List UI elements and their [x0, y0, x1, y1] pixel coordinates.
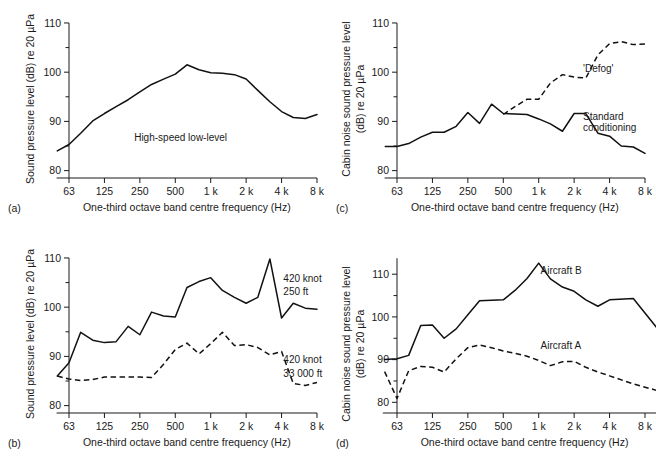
panel-d: 8090100110631252505001 k2 k4 k8 kAircraf… [328, 235, 656, 470]
x-tick-label: 250 [131, 420, 149, 432]
y-tick-label: 110 [372, 17, 389, 29]
y-tick-label: 100 [43, 66, 61, 78]
x-tick-label: 250 [459, 420, 477, 432]
x-tick-label: 500 [167, 185, 185, 197]
x-tick-label: 2 k [239, 420, 254, 432]
x-tick-label: 8 k [638, 185, 653, 197]
x-tick-label: 1 k [532, 420, 547, 432]
series-annotation: Standard [583, 111, 624, 122]
svg-text:Sound pressure level (dB) re 2: Sound pressure level (dB) re 20 µPa [24, 14, 36, 184]
figure-root: 8090100110631252505001 k2 k4 k8 kHigh-sp… [0, 0, 656, 470]
x-tick-label: 2 k [567, 420, 582, 432]
svg-text:Cabin noise sound pressure lev: Cabin noise sound pressure level [340, 21, 352, 176]
series-annotation: Aircraft B [540, 265, 581, 276]
y-tick-label: 90 [49, 115, 61, 127]
y-axis-title: Cabin noise sound pressure level(dB) re … [340, 21, 366, 176]
panel-letter: (a) [8, 202, 21, 214]
x-tick-label: 4 k [603, 185, 618, 197]
chart-c: 8090100110631252505001 k2 k4 k8 k'Defog'… [328, 0, 656, 235]
x-tick-label: 125 [96, 420, 114, 432]
panel-letter: (c) [336, 202, 348, 214]
panel-letter: (b) [8, 437, 21, 449]
y-tick-label: 80 [377, 396, 389, 408]
x-tick-label: 63 [63, 420, 75, 432]
x-tick-label: 1 k [532, 185, 547, 197]
x-axis-title: One-third octave band centre frequency (… [83, 436, 291, 448]
chart-d: 8090100110631252505001 k2 k4 k8 kAircraf… [328, 235, 656, 470]
panel-a: 8090100110631252505001 k2 k4 k8 kHigh-sp… [0, 0, 328, 235]
series-annotation: 250 ft [283, 286, 308, 297]
y-axis-title: Sound pressure level (dB) re 20 µPa [24, 14, 36, 184]
svg-text:(dB) re 20 µPa: (dB) re 20 µPa [354, 310, 366, 379]
x-tick-label: 250 [459, 185, 477, 197]
y-tick-label: 110 [44, 17, 61, 29]
x-tick-label: 2 k [239, 185, 254, 197]
x-tick-label: 63 [391, 185, 403, 197]
chart-b: 8090100110631252505001 k2 k4 k8 k420 kno… [0, 235, 328, 470]
x-tick-label: 4 k [603, 420, 618, 432]
x-tick-label: 125 [424, 420, 442, 432]
x-axis-title: One-third octave band centre frequency (… [411, 201, 619, 213]
series-line [503, 42, 645, 115]
y-tick-label: 100 [43, 301, 61, 313]
panel-b: 8090100110631252505001 k2 k4 k8 k420 kno… [0, 235, 328, 470]
svg-text:(dB) re 20 µPa: (dB) re 20 µPa [354, 65, 366, 134]
y-tick-label: 90 [377, 115, 389, 127]
chart-a: 8090100110631252505001 k2 k4 k8 kHigh-sp… [0, 0, 328, 235]
x-tick-label: 500 [495, 420, 513, 432]
x-axis-title: One-third octave band centre frequency (… [83, 201, 291, 213]
series-annotation: High-speed low-level [134, 132, 227, 143]
x-tick-label: 125 [96, 185, 114, 197]
x-tick-label: 4 k [275, 185, 290, 197]
x-tick-label: 63 [63, 185, 75, 197]
panel-c: 8090100110631252505001 k2 k4 k8 k'Defog'… [328, 0, 656, 235]
x-tick-label: 8 k [310, 420, 325, 432]
series-annotation: 33 000 ft [283, 368, 322, 379]
y-tick-label: 100 [371, 311, 389, 323]
x-tick-label: 8 k [638, 420, 653, 432]
series-line [385, 263, 656, 360]
x-tick-label: 500 [167, 420, 185, 432]
x-tick-label: 63 [391, 420, 403, 432]
y-tick-label: 100 [371, 66, 389, 78]
x-tick-label: 125 [424, 185, 442, 197]
x-tick-label: 8 k [310, 185, 325, 197]
y-tick-label: 110 [44, 252, 61, 264]
series-annotation: Aircraft A [540, 340, 581, 351]
x-tick-label: 500 [495, 185, 513, 197]
series-annotation: 420 knot [283, 354, 322, 365]
series-annotation: 420 knot [283, 273, 322, 284]
y-tick-label: 80 [49, 164, 61, 176]
series-line [57, 259, 317, 376]
y-tick-label: 80 [49, 399, 61, 411]
x-tick-label: 250 [131, 185, 149, 197]
y-axis-title: Sound pressure level (dB) re 20 µPa [24, 249, 36, 419]
series-annotation: conditioning [583, 122, 636, 133]
y-tick-label: 110 [372, 268, 389, 280]
x-axis-title: One-third octave band centre frequency (… [421, 436, 629, 448]
panel-letter: (d) [336, 437, 349, 449]
y-tick-label: 90 [49, 350, 61, 362]
svg-text:Cabin noise sound pressure lev: Cabin noise sound pressure level [340, 266, 352, 421]
y-axis-title: Cabin noise sound pressure level(dB) re … [340, 266, 366, 421]
x-tick-label: 4 k [275, 420, 290, 432]
x-tick-label: 2 k [567, 185, 582, 197]
x-tick-label: 1 k [204, 185, 219, 197]
x-tick-label: 1 k [204, 420, 219, 432]
series-annotation: 'Defog' [583, 63, 614, 74]
y-tick-label: 80 [377, 164, 389, 176]
series-line [385, 345, 656, 398]
svg-text:Sound pressure level (dB) re 2: Sound pressure level (dB) re 20 µPa [24, 249, 36, 419]
